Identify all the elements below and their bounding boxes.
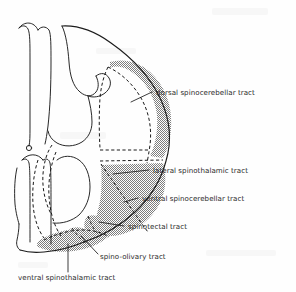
spinal-cord-diagram: dorsal spinocerebellar tract lateral spi… [0,0,296,292]
label-ventral-spinocerebellar-tract: ventral spinocerebellar tract [142,194,244,203]
label-lateral-spinothalamic-tract: lateral spinothalamic tract [153,166,248,175]
label-dorsal-spinocerebellar-tract: dorsal spinocerebellar tract [156,88,255,97]
label-spino-olivary-tract: spino-olivary tract [100,252,166,261]
label-ventral-spinothalamic-tract: ventral spinothalamic tract [18,273,116,282]
label-spinotectal-tract: spinotectal tract [128,222,187,231]
